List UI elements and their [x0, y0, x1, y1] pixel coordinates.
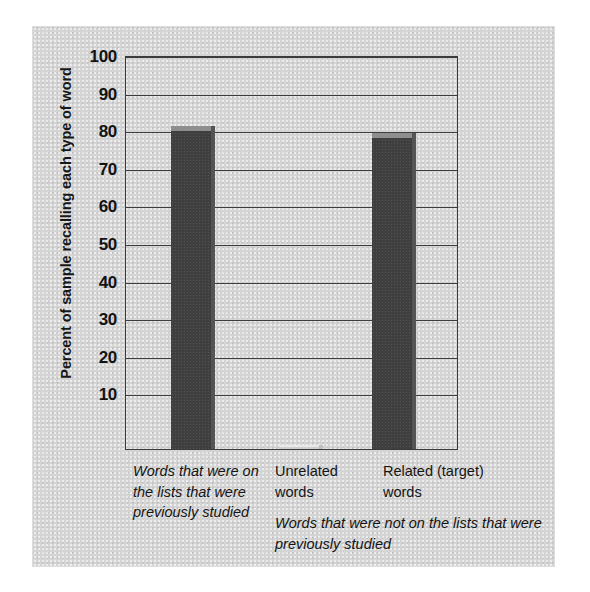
bar-words-on-lists [171, 126, 215, 449]
bar-top-face [171, 126, 215, 131]
y-tick-label-70: 70 [99, 160, 117, 180]
y-tick-label-60: 60 [99, 197, 117, 217]
bar-side-face [211, 126, 215, 449]
category-label-0: Words that were on the lists that were p… [133, 461, 261, 523]
bar-related-target-words [372, 133, 416, 449]
bar-top-face [279, 445, 323, 447]
gridline-90 [126, 95, 457, 96]
y-tick-label-30: 30 [99, 310, 117, 330]
plot-area: 100 90 80 70 60 50 40 30 20 10 [125, 56, 458, 450]
bar-unrelated-words [279, 445, 323, 449]
category-group-footnote: Words that were not on the lists that we… [275, 513, 575, 555]
category-label-1: Unrelated words [275, 461, 375, 502]
category-labels: Words that were on the lists that were p… [125, 461, 585, 571]
y-tick-label-50: 50 [99, 235, 117, 255]
y-tick-label-90: 90 [99, 85, 117, 105]
chart-figure: Percent of sample recalling each type of… [33, 27, 554, 566]
y-tick-label-80: 80 [99, 122, 117, 142]
y-tick-label-20: 20 [99, 348, 117, 368]
bar-side-face [412, 133, 416, 449]
gridline-100 [126, 57, 457, 58]
y-tick-label-10: 10 [99, 385, 117, 405]
bar-side-face [319, 445, 323, 449]
bar-top-face [372, 133, 416, 138]
category-label-2: Related (target) words [383, 461, 513, 502]
y-tick-label-100: 100 [90, 47, 117, 67]
y-axis-title: Percent of sample recalling each type of… [58, 58, 74, 388]
y-tick-label-40: 40 [99, 273, 117, 293]
